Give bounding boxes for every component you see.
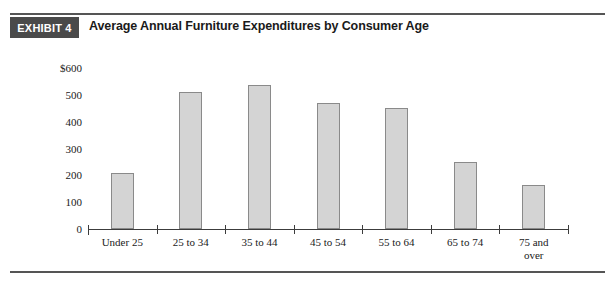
x-axis-tick	[568, 225, 569, 234]
x-axis-line	[88, 229, 568, 230]
x-axis-tick	[225, 225, 226, 234]
x-axis-tick	[362, 225, 363, 234]
x-tick-label: Under 25	[88, 236, 157, 249]
bar	[179, 92, 202, 229]
bar	[317, 103, 340, 229]
y-axis-labels: 0100200300400500$600	[36, 0, 82, 282]
x-tick-label: 65 to 74	[431, 236, 500, 249]
x-axis-tick	[499, 225, 500, 234]
x-axis-tick	[88, 225, 89, 234]
y-tick-label: 500	[36, 90, 82, 100]
x-tick-label: 55 to 64	[362, 236, 431, 249]
y-tick-label: 300	[36, 144, 82, 154]
exhibit-container: EXHIBIT 4 Average Annual Furniture Expen…	[0, 0, 613, 282]
x-axis-tick	[157, 225, 158, 234]
bar	[111, 173, 134, 229]
x-axis-tick	[431, 225, 432, 234]
bar-chart: 0100200300400500$600 Under 2525 to 3435 …	[0, 0, 613, 282]
x-axis-tick	[294, 225, 295, 234]
y-tick-label: 400	[36, 117, 82, 127]
bar	[248, 85, 271, 229]
y-tick-label: $600	[36, 63, 82, 73]
y-tick-label: 0	[36, 224, 82, 234]
bar	[522, 185, 545, 229]
bar	[454, 162, 477, 229]
x-tick-label: 45 to 54	[294, 236, 363, 249]
bottom-divider	[10, 271, 605, 273]
x-tick-label: 35 to 44	[225, 236, 294, 249]
x-tick-label: 25 to 34	[157, 236, 226, 249]
bar	[385, 108, 408, 229]
x-tick-label: 75 and over	[499, 236, 568, 262]
y-tick-label: 200	[36, 170, 82, 180]
y-tick-label: 100	[36, 197, 82, 207]
